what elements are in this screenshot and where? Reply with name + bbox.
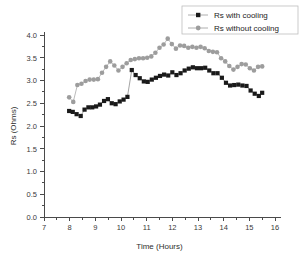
data-point: [96, 77, 101, 82]
data-point: [91, 77, 96, 82]
data-point: [191, 65, 195, 69]
data-point: [235, 65, 240, 70]
data-point: [243, 62, 248, 67]
data-point: [215, 50, 220, 55]
data-point: [138, 76, 142, 80]
data-point: [249, 88, 253, 92]
x-tick-label: 12: [168, 223, 176, 232]
data-point: [215, 71, 219, 75]
data-point: [124, 61, 129, 66]
data-point: [252, 68, 257, 73]
data-point: [228, 83, 232, 87]
data-point: [260, 64, 265, 69]
data-point: [170, 70, 174, 74]
data-point: [116, 68, 121, 73]
data-point: [112, 63, 117, 68]
data-point: [182, 44, 187, 49]
data-point: [256, 65, 261, 70]
data-point: [149, 54, 154, 59]
data-point: [158, 74, 162, 78]
data-point: [162, 72, 166, 76]
data-point: [153, 50, 158, 55]
data-point: [87, 77, 92, 82]
data-point: [86, 105, 90, 109]
data-point: [190, 45, 195, 50]
x-tick-label: 11: [143, 223, 151, 232]
x-tick-label: 9: [93, 223, 97, 232]
data-point: [125, 95, 129, 99]
data-point: [154, 76, 158, 80]
data-point: [79, 81, 84, 86]
data-point: [137, 56, 142, 61]
y-tick-label: 0.0: [27, 213, 37, 222]
data-point: [106, 97, 110, 101]
data-point: [146, 80, 150, 84]
y-tick-label: 4.0: [27, 31, 37, 40]
data-point: [194, 45, 199, 50]
data-point: [240, 83, 244, 87]
x-tick-label: 10: [117, 223, 125, 232]
data-point: [67, 95, 72, 100]
data-point: [130, 68, 134, 72]
data-point: [231, 67, 236, 72]
x-tick-label: 13: [194, 223, 202, 232]
chart-canvas: 789101112131415160.00.51.01.52.02.53.03.…: [0, 0, 304, 256]
data-point: [195, 66, 199, 70]
y-tick-label: 2.0: [27, 122, 37, 131]
data-point: [186, 45, 191, 50]
data-point: [211, 50, 216, 55]
data-point: [253, 92, 257, 96]
data-point: [199, 66, 203, 70]
y-tick-label: 3.0: [27, 76, 37, 85]
data-point: [108, 59, 113, 64]
data-point: [244, 84, 248, 88]
data-point: [260, 91, 264, 95]
data-point: [134, 73, 138, 77]
data-point: [236, 83, 240, 87]
data-point: [104, 65, 109, 70]
data-point: [187, 67, 191, 71]
data-point: [75, 112, 79, 116]
data-point: [90, 105, 94, 109]
x-tick-label: 8: [68, 223, 72, 232]
y-axis-title: Rs (Ohms): [9, 106, 18, 145]
data-point: [128, 58, 133, 63]
data-point: [142, 79, 146, 83]
data-point: [79, 114, 83, 118]
data-point: [118, 99, 122, 103]
data-point: [75, 83, 80, 88]
y-tick-label: 2.5: [27, 99, 37, 108]
data-point: [166, 73, 170, 77]
chart-legend: Rs with coolingRs without cooling: [182, 6, 298, 34]
data-point: [165, 36, 170, 41]
data-point: [102, 99, 106, 103]
data-point: [141, 56, 146, 61]
data-point: [227, 64, 232, 69]
data-point: [178, 71, 182, 75]
data-point: [211, 71, 215, 75]
x-tick-label: 15: [245, 223, 253, 232]
legend-marker-circle: [196, 26, 201, 31]
data-point: [67, 109, 71, 113]
legend-label: Rs without cooling: [214, 24, 279, 33]
data-point: [174, 73, 178, 77]
y-tick-label: 1.0: [27, 167, 37, 176]
x-tick-label: 16: [271, 223, 279, 232]
data-point: [110, 101, 114, 105]
data-point: [232, 83, 236, 87]
data-point: [198, 45, 203, 50]
data-point: [82, 108, 86, 112]
data-point: [223, 59, 228, 64]
data-point: [100, 70, 105, 75]
data-point: [150, 77, 154, 81]
x-axis-title: Time (Hours): [136, 242, 183, 251]
data-point: [207, 68, 211, 72]
data-point: [183, 68, 187, 72]
data-point: [220, 76, 224, 80]
data-point: [83, 79, 88, 84]
data-point: [71, 110, 75, 114]
y-tick-label: 1.5: [27, 145, 37, 154]
data-point: [174, 46, 179, 51]
y-tick-label: 0.5: [27, 190, 37, 199]
data-point: [145, 55, 150, 60]
